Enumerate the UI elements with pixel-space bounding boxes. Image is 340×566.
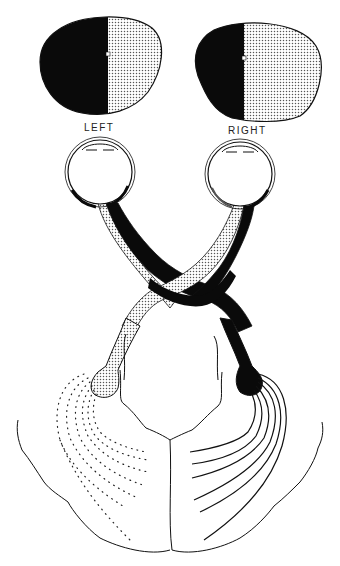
left-field-label: LEFT (84, 122, 114, 133)
right-optic-radiation-solid (190, 374, 286, 540)
left-optic-radiation-dotted (57, 374, 148, 540)
left-optic-tract (91, 318, 140, 397)
right-eye (205, 139, 275, 209)
visual-pathway-diagram (0, 0, 340, 566)
fixation-point-right (242, 56, 246, 60)
right-field-label: RIGHT (228, 125, 267, 136)
left-eye (65, 137, 135, 207)
right-visual-field (190, 15, 334, 130)
fixation-point-left (106, 52, 110, 56)
occipital-cortex-outline (17, 334, 323, 552)
left-visual-field (30, 10, 178, 125)
